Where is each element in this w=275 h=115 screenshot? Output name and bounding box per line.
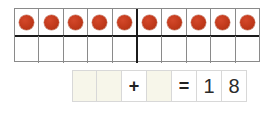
ten-frame-cell[interactable] bbox=[162, 9, 186, 36]
counter-dot-icon bbox=[92, 15, 107, 30]
ten-frame-cell[interactable] bbox=[88, 9, 112, 36]
equation-blank-cell[interactable] bbox=[72, 70, 97, 102]
plus-operator: + bbox=[122, 70, 147, 102]
ten-frame-top-row bbox=[15, 9, 259, 36]
counter-dot-icon bbox=[142, 15, 157, 30]
counter-dot-icon bbox=[44, 15, 59, 30]
ten-frame-cell[interactable] bbox=[211, 9, 235, 36]
ten-frame-bottom-row bbox=[15, 36, 259, 63]
counter-dot-icon bbox=[240, 15, 255, 30]
counter-dot-icon bbox=[191, 15, 206, 30]
ten-frame-cell[interactable] bbox=[236, 9, 259, 36]
counter-dot-icon bbox=[167, 15, 182, 30]
ten-frame-cell[interactable] bbox=[187, 36, 211, 63]
answer-digit-ones: 8 bbox=[222, 70, 247, 102]
counter-dot-icon bbox=[215, 15, 230, 30]
ten-frame-cell[interactable] bbox=[64, 36, 88, 63]
ten-frame-cell[interactable] bbox=[88, 36, 112, 63]
answer-digit-tens: 1 bbox=[197, 70, 222, 102]
counter-dot-icon bbox=[117, 15, 132, 30]
ten-frame-cell[interactable] bbox=[113, 36, 138, 63]
counter-dot-icon bbox=[68, 15, 83, 30]
ten-frame-cell[interactable] bbox=[211, 36, 235, 63]
ten-frame-cell[interactable] bbox=[162, 36, 186, 63]
ten-frame-cell[interactable] bbox=[39, 9, 63, 36]
ten-frame bbox=[14, 8, 260, 62]
ten-frame-cell[interactable] bbox=[15, 36, 39, 63]
ten-frame-cell[interactable] bbox=[187, 9, 211, 36]
equation-blank-cell[interactable] bbox=[97, 70, 122, 102]
ten-frame-cell[interactable] bbox=[15, 9, 39, 36]
ten-frame-cell[interactable] bbox=[138, 36, 162, 63]
equals-operator: = bbox=[172, 70, 197, 102]
ten-frame-cell[interactable] bbox=[113, 9, 138, 36]
addition-equation: + = 1 8 bbox=[72, 70, 247, 102]
ten-frame-cell[interactable] bbox=[64, 9, 88, 36]
ten-frame-cell[interactable] bbox=[138, 9, 162, 36]
ten-frame-cell[interactable] bbox=[39, 36, 63, 63]
ten-frame-cell[interactable] bbox=[236, 36, 259, 63]
counter-dot-icon bbox=[19, 15, 34, 30]
equation-blank-cell[interactable] bbox=[147, 70, 172, 102]
